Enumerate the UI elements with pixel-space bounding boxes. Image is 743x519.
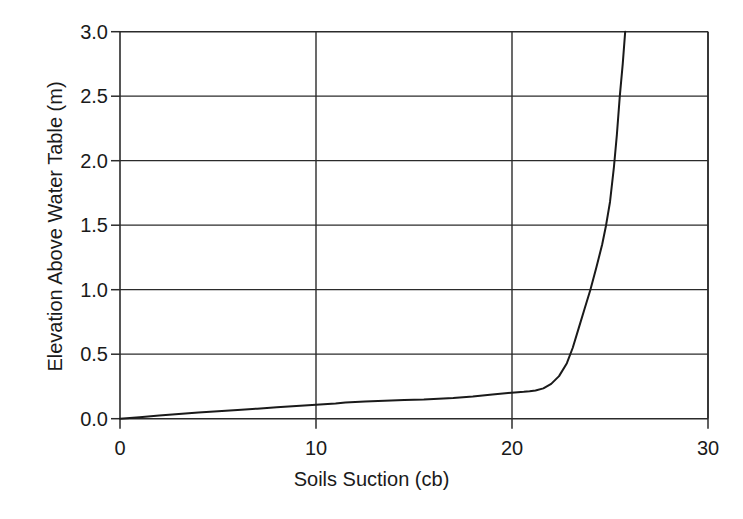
y-tick-label: 3.0	[60, 20, 108, 43]
x-tick-label: 10	[305, 437, 327, 460]
y-tick-label: 2.5	[60, 85, 108, 108]
x-tick-label: 0	[114, 437, 125, 460]
y-tick-label: 1.5	[60, 214, 108, 237]
y-tick-label: 0.5	[60, 343, 108, 366]
y-tick-label: 0.0	[60, 407, 108, 430]
x-tick-label: 20	[501, 437, 523, 460]
plot-area	[0, 0, 743, 519]
x-axis-title: Soils Suction (cb)	[0, 468, 743, 491]
x-tick-label: 30	[697, 437, 719, 460]
y-axis-ticks	[111, 32, 120, 419]
y-tick-label: 1.0	[60, 278, 108, 301]
y-axis-title: Elevation Above Water Table (m)	[44, 67, 67, 387]
y-tick-label: 2.0	[60, 149, 108, 172]
x-axis-ticks	[120, 419, 708, 429]
chart-figure: 0.00.51.01.52.02.53.0 0102030 Soils Suct…	[0, 0, 743, 519]
